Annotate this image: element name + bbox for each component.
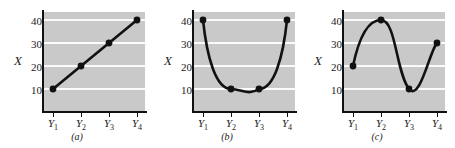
x-tick-label-c-2: Y2 bbox=[368, 117, 394, 132]
data-series-b bbox=[194, 12, 295, 111]
y-tick-group-c: 10 20 30 40 bbox=[318, 0, 342, 148]
panel-caption-b: (b) bbox=[152, 131, 302, 142]
data-point-c-2 bbox=[378, 17, 385, 24]
x-tick-label-c-4: Y4 bbox=[424, 117, 450, 132]
y-tick-20-a: 20 bbox=[20, 61, 42, 73]
series-line-a bbox=[53, 20, 137, 89]
x-tick-label-b-2: Y2 bbox=[218, 117, 244, 132]
x-tick-label-b-3: Y3 bbox=[246, 117, 272, 132]
x-axis-line-a bbox=[42, 111, 147, 113]
data-point-a-3 bbox=[106, 40, 113, 47]
panel-b: X 10 20 30 40 Y1 Y2 Y3 Y4 ( bbox=[152, 0, 302, 148]
x-axis-line-b bbox=[192, 111, 297, 113]
y-axis-line-b bbox=[192, 10, 194, 113]
y-axis-line-c bbox=[342, 10, 344, 113]
data-point-b-3 bbox=[256, 86, 263, 93]
panel-caption-c: (c) bbox=[302, 131, 452, 142]
x-tick-label-c-3: Y3 bbox=[396, 117, 422, 132]
y-axis-line-a bbox=[42, 10, 44, 113]
data-point-b-2 bbox=[228, 86, 235, 93]
y-tick-group-a: 10 20 30 40 bbox=[18, 0, 42, 148]
y-tick-20-c: 20 bbox=[320, 61, 342, 73]
y-tick-group-b: 10 20 30 40 bbox=[168, 0, 192, 148]
panel-a: X 10 20 30 40 Y1 Y2 Y3 Y4 ( bbox=[2, 0, 152, 148]
y-tick-10-b: 10 bbox=[170, 84, 192, 96]
panel-c: X 10 20 30 40 Y1 Y2 Y3 Y4 ( bbox=[302, 0, 452, 148]
x-axis-line-c bbox=[342, 111, 447, 113]
y-tick-20-b: 20 bbox=[170, 61, 192, 73]
series-line-b bbox=[203, 20, 287, 92]
x-tick-label-b-4: Y4 bbox=[274, 117, 300, 132]
data-point-c-1 bbox=[350, 63, 357, 70]
x-tick-label-a-4: Y4 bbox=[124, 117, 150, 132]
data-point-a-4 bbox=[134, 17, 141, 24]
x-tick-label-a-1: Y1 bbox=[40, 117, 66, 132]
x-tick-label-b-1: Y1 bbox=[190, 117, 216, 132]
series-line-c bbox=[353, 20, 437, 91]
data-point-b-4 bbox=[284, 17, 291, 24]
data-series-a bbox=[44, 12, 145, 111]
y-tick-30-b: 30 bbox=[170, 38, 192, 50]
y-tick-30-c: 30 bbox=[320, 38, 342, 50]
data-point-a-2 bbox=[78, 63, 85, 70]
y-tick-40-a: 40 bbox=[20, 15, 42, 27]
x-tick-label-a-3: Y3 bbox=[96, 117, 122, 132]
y-tick-10-c: 10 bbox=[320, 84, 342, 96]
data-series-c bbox=[344, 12, 445, 111]
data-point-c-3 bbox=[406, 86, 413, 93]
y-tick-40-c: 40 bbox=[320, 15, 342, 27]
three-panel-line-chart-figure: X 10 20 30 40 Y1 Y2 Y3 Y4 ( bbox=[0, 0, 455, 148]
panel-caption-a: (a) bbox=[2, 131, 152, 142]
data-point-b-1 bbox=[200, 17, 207, 24]
y-tick-10-a: 10 bbox=[20, 84, 42, 96]
x-tick-label-a-2: Y2 bbox=[68, 117, 94, 132]
data-point-a-1 bbox=[50, 86, 57, 93]
y-tick-30-a: 30 bbox=[20, 38, 42, 50]
x-tick-label-c-1: Y1 bbox=[340, 117, 366, 132]
y-tick-40-b: 40 bbox=[170, 15, 192, 27]
data-point-c-4 bbox=[434, 40, 441, 47]
